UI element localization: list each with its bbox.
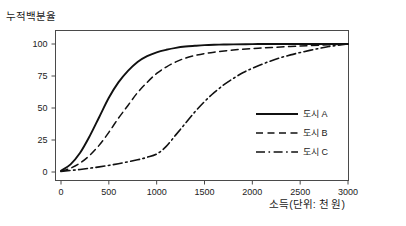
x-tick-label: 1000 bbox=[147, 187, 167, 197]
x-tick-label: 500 bbox=[101, 187, 116, 197]
x-tick-label: 0 bbox=[58, 187, 63, 197]
y-tick-label: 100 bbox=[32, 39, 47, 49]
cumulative-percentage-line-chart: 누적백분율 0255075100 05001000150020002500300… bbox=[0, 0, 406, 226]
x-axis-title: 소득(단위: 천 원) bbox=[269, 198, 345, 210]
x-tick-label: 1500 bbox=[194, 187, 214, 197]
legend-label-도시-c: 도시 C bbox=[303, 147, 329, 157]
x-tick-label: 2000 bbox=[242, 187, 262, 197]
legend-label-도시-a: 도시 A bbox=[303, 109, 328, 119]
x-tick-label: 2500 bbox=[290, 187, 310, 197]
legend-label-도시-b: 도시 B bbox=[303, 128, 328, 138]
y-tick-label: 25 bbox=[37, 135, 47, 145]
y-tick-label: 50 bbox=[37, 103, 47, 113]
y-tick-label: 0 bbox=[42, 167, 47, 177]
y-axis-title: 누적백분율 bbox=[6, 10, 56, 22]
y-tick-label: 75 bbox=[37, 71, 47, 81]
x-tick-label: 3000 bbox=[338, 187, 358, 197]
